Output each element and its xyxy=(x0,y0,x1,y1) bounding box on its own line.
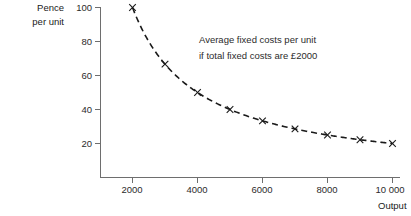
afc-marker-group xyxy=(129,4,396,147)
data-point-marker xyxy=(162,61,169,68)
average-fixed-cost-chart: 100 80 60 40 20 2000 4000 6000 8000 10 0… xyxy=(0,0,411,216)
x-tick-label: 4000 xyxy=(186,184,207,195)
x-tick-label: 8000 xyxy=(316,184,337,195)
x-tick-label: 2000 xyxy=(121,184,142,195)
x-tick-label: 6000 xyxy=(251,184,272,195)
x-tick-label: 10 000 xyxy=(375,184,404,195)
data-series-group xyxy=(129,4,396,147)
data-point-marker xyxy=(194,89,201,96)
x-tick-labels: 2000 4000 6000 8000 10 000 xyxy=(121,184,404,195)
y-axis-label-line1: Pence xyxy=(37,2,64,13)
y-tick-label: 60 xyxy=(81,70,92,81)
chart-screenshot: 100 80 60 40 20 2000 4000 6000 8000 10 0… xyxy=(0,0,411,216)
y-tick-marks xyxy=(95,8,100,144)
afc-curve-line xyxy=(133,8,393,144)
x-axis-label: Output xyxy=(378,200,407,211)
chart-annotation: Average fixed costs per unit if total fi… xyxy=(199,34,317,61)
axis-group xyxy=(100,7,400,178)
data-point-marker xyxy=(389,140,396,147)
y-tick-label: 80 xyxy=(81,36,92,47)
annotation-line-1: Average fixed costs per unit xyxy=(199,34,316,45)
y-tick-label: 20 xyxy=(81,138,92,149)
y-tick-labels: 100 80 60 40 20 xyxy=(76,2,92,149)
data-point-marker xyxy=(129,4,136,11)
data-point-marker xyxy=(227,106,234,113)
annotation-line-2: if total fixed costs are £2000 xyxy=(199,50,317,61)
y-tick-label: 100 xyxy=(76,2,92,13)
y-axis-label-line2: per unit xyxy=(32,16,64,27)
y-tick-label: 40 xyxy=(81,104,92,115)
